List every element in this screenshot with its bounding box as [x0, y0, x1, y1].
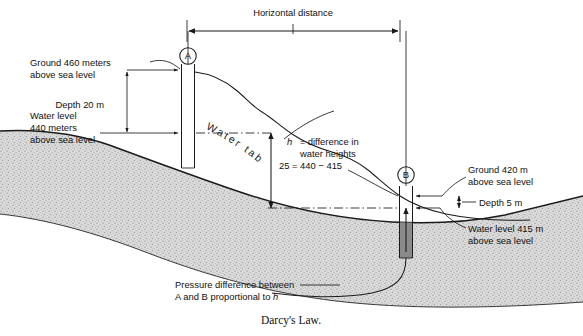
h-note-line1: = difference in [300, 136, 359, 147]
ground-420-annotation: Ground 420 m above sea level [416, 164, 533, 196]
well-a-label: A [185, 50, 192, 61]
horizontal-distance-label: Horizontal distance [253, 7, 333, 18]
svg-text:A and B proportional to: A and B proportional to h [175, 291, 278, 302]
h-note-symbol: h [287, 136, 292, 147]
ground-420-line2: above sea level [468, 176, 533, 187]
water-440-line3: above sea level [30, 134, 95, 145]
h-note-line3: 25 = 440 − 415 [279, 160, 342, 171]
pressure-note-line1: Pressure difference between [175, 279, 294, 290]
ground-460-hook [150, 60, 180, 69]
pressure-note-line2: A and B proportional to [175, 291, 273, 302]
depth-5-label: Depth 5 m [479, 197, 522, 208]
ground-420-leader-elbow [442, 177, 466, 196]
water-level-440-annotation: Water level 440 meters above sea level [30, 110, 178, 145]
water-415-line1: Water level 415 m [468, 223, 543, 234]
ground-460-annotation: Ground 460 meters above sea level [30, 57, 180, 80]
horizontal-distance-dimension: Horizontal distance [187, 7, 400, 42]
well-b-label: B [403, 169, 409, 180]
ground-420-line1: Ground 420 m [468, 164, 528, 175]
well-a-water-column [182, 120, 195, 168]
figure-caption: Darcy's Law. [261, 314, 321, 327]
svg-text:h = difference in: h = difference in [287, 131, 359, 148]
ground-460-line2: above sea level [30, 69, 95, 80]
darcys-law-figure: A B Horizontal distance Ground 460 meter… [0, 0, 583, 336]
water-440-line1: Water level [30, 110, 77, 121]
h-note-line2: water heights [299, 148, 356, 159]
ground-460-line1: Ground 460 meters [30, 57, 111, 68]
water-415-line2: above sea level [468, 235, 533, 246]
pressure-note-symbol: h [273, 291, 278, 302]
well-a: A [180, 31, 196, 168]
well-b: B [398, 31, 414, 258]
h-note-annotation: h = difference in water heights 25 = 440… [279, 111, 398, 196]
depth-5-dimension: Depth 5 m [459, 196, 522, 208]
water-440-line2: 440 meters [30, 122, 77, 133]
depth-20-label: Depth 20 m [56, 99, 105, 110]
